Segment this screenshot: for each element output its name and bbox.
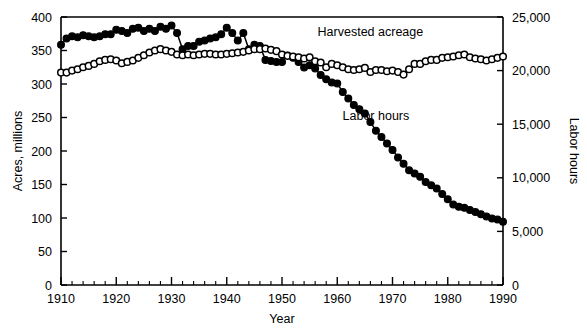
y2-axis-tick-label: 10,000 (512, 171, 550, 185)
labor-hours-point (279, 59, 286, 66)
labor-hours-point (373, 127, 380, 134)
y2-axis-tick-label: 15,000 (512, 118, 550, 132)
labor-hours-point (168, 22, 175, 29)
labor-hours-point (229, 30, 236, 37)
labor-hours-point (389, 147, 396, 154)
y2-axis-tick-label: 0 (512, 279, 519, 293)
chart-svg: 05010015020025030035040005,00010,00015,0… (0, 0, 587, 333)
labor-hours-point (223, 24, 230, 31)
x-axis-tick-label: 1910 (47, 292, 75, 306)
x-axis-tick-label: 1960 (323, 292, 351, 306)
labor-hours-point (417, 173, 424, 180)
y-axis-tick-label: 350 (31, 44, 52, 58)
y2-axis-tick-label: 5,000 (512, 225, 543, 239)
y-axis-tick-label: 150 (31, 178, 52, 192)
harvested-acreage-point (400, 71, 407, 78)
x-axis-tick-label: 1980 (434, 292, 462, 306)
y2-axis-tick-label: 20,000 (512, 64, 550, 78)
y-axis-tick-label: 100 (31, 212, 52, 226)
y2-axis-tick-label: 25,000 (512, 11, 550, 25)
x-axis-tick-label: 1940 (213, 292, 241, 306)
y-axis-title: Acres, millions (11, 111, 25, 192)
x-axis-title: Year (269, 312, 294, 326)
labor-hours-point (58, 41, 65, 48)
y-axis-tick-label: 50 (38, 245, 52, 259)
harvested-acreage-point (406, 66, 413, 73)
labor-hours-point (339, 89, 346, 96)
y-axis-tick-label: 400 (31, 11, 52, 25)
x-axis-tick-label: 1990 (489, 292, 517, 306)
chart-plot-area (58, 22, 507, 225)
labor-hours-point (218, 31, 225, 38)
labor-hours-point (395, 154, 402, 161)
labor-hours-point (234, 37, 241, 44)
x-axis-tick-label: 1920 (102, 292, 130, 306)
y2-axis-title: Labor hours (567, 118, 581, 185)
y-axis-tick-label: 300 (31, 78, 52, 92)
y-axis-tick-label: 0 (45, 279, 52, 293)
x-axis-tick-label: 1970 (379, 292, 407, 306)
chart-figure: 05010015020025030035040005,00010,00015,0… (0, 0, 587, 333)
labor-hours-point (384, 140, 391, 147)
labor-hours-point (312, 65, 319, 72)
labor-hours-point (433, 185, 440, 192)
harvested-acreage-label: Harvested acreage (318, 25, 424, 39)
labor-hours-point (345, 95, 352, 102)
labor-hours-point (400, 160, 407, 167)
y-axis-tick-label: 200 (31, 145, 52, 159)
labor-hours-point (444, 196, 451, 203)
x-axis-tick-label: 1930 (158, 292, 186, 306)
labor-hours-point (500, 218, 507, 225)
labor-hours-label: Labor hours (343, 109, 410, 123)
labor-hours-point (378, 134, 385, 141)
labor-hours-point (240, 30, 247, 37)
labor-hours-point (174, 30, 181, 37)
harvested-acreage-point (500, 53, 507, 60)
y-axis-tick-label: 250 (31, 111, 52, 125)
labor-hours-point (334, 80, 341, 87)
x-axis-tick-label: 1950 (268, 292, 296, 306)
labor-hours-point (439, 190, 446, 197)
